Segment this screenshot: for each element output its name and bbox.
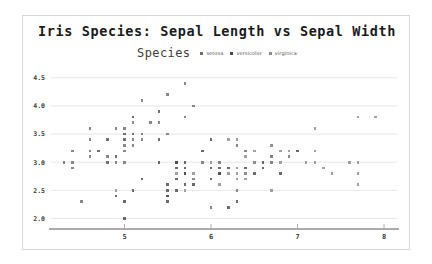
data-point <box>270 144 273 147</box>
data-point <box>253 150 256 153</box>
data-point <box>270 144 273 147</box>
data-point <box>184 82 187 85</box>
data-point <box>97 150 100 153</box>
data-point <box>236 178 239 181</box>
data-point <box>270 155 273 158</box>
data-point <box>158 121 161 124</box>
data-point <box>132 121 135 124</box>
data-point <box>270 161 273 164</box>
data-point <box>279 161 282 164</box>
data-point <box>270 155 273 158</box>
data-point <box>106 138 109 141</box>
data-point <box>357 172 360 175</box>
data-point <box>227 138 230 141</box>
data-point <box>288 155 291 158</box>
data-point <box>253 161 256 164</box>
data-point <box>192 178 195 181</box>
legend-swatch-virginica <box>269 52 272 55</box>
data-point <box>123 217 126 220</box>
data-point <box>166 195 169 198</box>
data-point <box>192 178 195 181</box>
data-point <box>227 167 230 170</box>
data-point <box>166 200 169 203</box>
data-point <box>123 150 126 153</box>
legend-entry-setosa[interactable]: setosa <box>200 50 223 56</box>
x-tick-label: 6 <box>209 233 213 241</box>
data-point <box>218 161 221 164</box>
data-point <box>279 150 282 153</box>
data-point <box>357 116 360 119</box>
y-tick-label: 3.0 <box>33 159 45 167</box>
data-point <box>210 206 213 209</box>
data-point <box>253 161 256 164</box>
data-point <box>374 116 377 119</box>
data-point <box>244 167 247 170</box>
data-point <box>201 161 204 164</box>
data-point <box>201 161 204 164</box>
data-point <box>201 150 204 153</box>
y-tick-label: 4.0 <box>33 102 45 110</box>
data-point <box>115 161 118 164</box>
data-point <box>236 189 239 192</box>
data-point <box>71 167 74 170</box>
data-point <box>89 155 92 158</box>
data-point <box>236 144 239 147</box>
data-point <box>288 150 291 153</box>
data-point <box>236 144 239 147</box>
data-point <box>296 150 299 153</box>
data-point <box>314 161 317 164</box>
data-point <box>192 105 195 108</box>
data-point <box>132 133 135 136</box>
data-point <box>192 178 195 181</box>
data-point <box>314 127 317 130</box>
data-point <box>132 144 135 147</box>
data-point <box>123 144 126 147</box>
data-point <box>227 206 230 209</box>
data-point <box>357 161 360 164</box>
data-point <box>132 133 135 136</box>
x-tick-label: 5 <box>122 233 126 241</box>
chart-legend: Species setosa versicolor virginica <box>23 46 411 60</box>
data-point <box>132 116 135 119</box>
data-point <box>236 138 239 141</box>
data-point <box>184 116 187 119</box>
data-point <box>123 133 126 136</box>
data-point <box>236 167 239 170</box>
data-point <box>123 200 126 203</box>
data-point <box>141 99 144 102</box>
data-point <box>244 155 247 158</box>
data-point <box>253 161 256 164</box>
data-point <box>80 200 83 203</box>
data-point <box>218 167 221 170</box>
legend-title: Species <box>137 46 190 60</box>
data-point <box>166 195 169 198</box>
data-point <box>244 150 247 153</box>
legend-entry-virginica[interactable]: virginica <box>269 50 297 56</box>
data-point <box>106 155 109 158</box>
series-virginica <box>115 116 377 209</box>
data-point <box>244 172 247 175</box>
data-point <box>115 195 118 198</box>
data-point <box>175 161 178 164</box>
data-point <box>123 138 126 141</box>
data-point <box>244 172 247 175</box>
data-point <box>236 200 239 203</box>
legend-entry-versicolor[interactable]: versicolor <box>230 50 261 56</box>
data-point <box>279 172 282 175</box>
data-point <box>253 172 256 175</box>
data-point <box>132 116 135 119</box>
data-point <box>227 172 230 175</box>
data-point <box>184 161 187 164</box>
data-point <box>322 167 325 170</box>
data-point <box>175 167 178 170</box>
data-point <box>166 189 169 192</box>
x-tick-label: 7 <box>295 233 299 241</box>
page-title: Iris Species: Sepal Length vs Sepal Widt… <box>23 23 411 39</box>
data-point <box>218 161 221 164</box>
data-point <box>218 172 221 175</box>
data-point <box>158 110 161 113</box>
legend-swatch-setosa <box>200 52 203 55</box>
data-point <box>210 167 213 170</box>
data-point <box>97 150 100 153</box>
data-point <box>270 189 273 192</box>
